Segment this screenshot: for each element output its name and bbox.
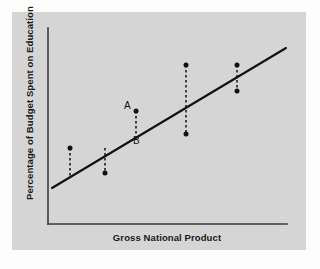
data-point-5-lower xyxy=(235,89,240,94)
data-point-3 xyxy=(134,109,139,114)
annotation-label-b: B xyxy=(133,135,140,146)
regression-scatter-chart: Percentage of Budget Spent on Education … xyxy=(0,0,320,269)
y-axis-title: Percentage of Budget Spent on Education xyxy=(24,6,35,200)
x-axis-title: Gross National Product xyxy=(113,232,222,243)
annotation-label-a: A xyxy=(124,100,131,111)
data-point-1 xyxy=(68,146,73,151)
regression-best-fit-line xyxy=(52,48,286,188)
residual-marker-2 xyxy=(103,148,108,176)
data-point-4-lower xyxy=(184,132,189,137)
data-point-2 xyxy=(103,171,108,176)
data-point-4-upper xyxy=(184,63,189,68)
data-point-5-upper xyxy=(235,63,240,68)
residual-marker-1 xyxy=(68,146,73,178)
figure-root: Percentage of Budget Spent on Education … xyxy=(0,0,320,269)
residual-marker-4 xyxy=(184,63,189,137)
